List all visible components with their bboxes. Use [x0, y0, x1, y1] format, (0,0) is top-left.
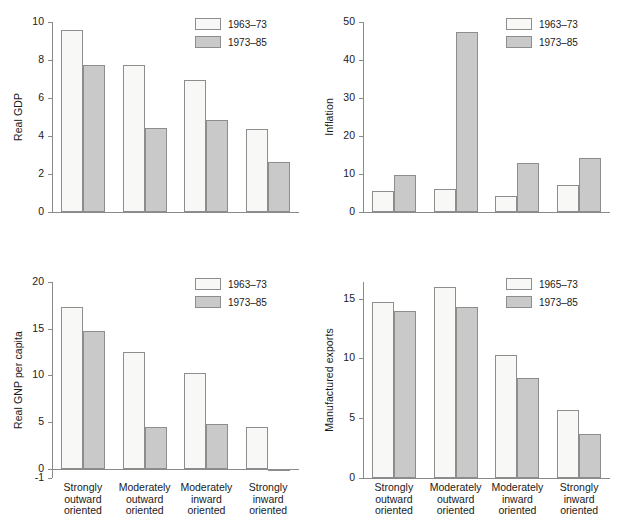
figure-bar-chart-grid: 0246810Real GDP1963–731973–85 0102030405… [0, 0, 622, 525]
bar-manufactured-exports-g1-s0 [434, 287, 456, 478]
y-axis-tick [48, 375, 52, 376]
legend-swatch-icon [506, 278, 532, 290]
legend-label: 1963–73 [228, 279, 267, 290]
bar-real-gdp-g3-s1 [268, 162, 290, 212]
y-axis-line [52, 282, 53, 478]
y-axis-tick [48, 212, 52, 213]
legend-label: 1973–85 [228, 297, 267, 308]
chart-panel-manufactured-exports: 051015Manufactured exports1965–731973–85… [311, 260, 622, 525]
bar-manufactured-exports-g1-s1 [456, 307, 478, 478]
bar-real-gdp-g0-s0 [61, 30, 83, 212]
y-axis-tick [48, 60, 52, 61]
bar-real-gdp-g1-s1 [145, 128, 167, 212]
y-axis-line [363, 282, 364, 478]
y-axis-tick [48, 422, 52, 423]
bar-inflation-g1-s1 [456, 32, 478, 212]
legend-label: 1963–73 [539, 19, 578, 30]
chart-panel-real-gnp-per-capita: -105101520Real GNP per capita1963–731973… [0, 260, 311, 525]
bar-real-gnp-per-capita-g2-s0 [184, 373, 206, 468]
bar-real-gnp-per-capita-g0-s1 [83, 331, 105, 469]
y-axis-tick [359, 212, 363, 213]
bar-inflation-g0-s0 [372, 191, 394, 212]
x-axis-category-label: Strongly inward oriented [237, 482, 299, 517]
bar-real-gdp-g2-s1 [206, 120, 228, 212]
bar-inflation-g2-s1 [517, 163, 539, 212]
x-axis-category-labels: Strongly outward orientedModerately outw… [363, 482, 610, 517]
bar-inflation-g1-s0 [434, 189, 456, 212]
x-axis-category-label: Moderately outward oriented [114, 482, 176, 517]
y-axis-tick-label: 2 [10, 168, 44, 178]
bar-inflation-g3-s0 [557, 185, 579, 212]
legend-swatch-icon [506, 18, 532, 30]
bar-manufactured-exports-g3-s1 [579, 434, 601, 478]
x-axis-category-label: Moderately inward oriented [487, 482, 549, 517]
x-axis-category-label: Strongly inward oriented [548, 482, 610, 517]
x-axis-category-label: Strongly outward oriented [52, 482, 114, 517]
bar-manufactured-exports-g2-s1 [517, 378, 539, 478]
y-axis-tick-label: 8 [10, 54, 44, 64]
bar-manufactured-exports-g0-s0 [372, 302, 394, 478]
y-axis-tick-label: 0 [10, 206, 44, 216]
bar-real-gdp-g0-s1 [83, 65, 105, 212]
y-axis-line [52, 22, 53, 212]
y-axis-tick [359, 418, 363, 419]
legend-label: 1973–85 [539, 297, 578, 308]
y-axis-tick [48, 478, 52, 479]
bar-real-gnp-per-capita-g0-s0 [61, 307, 83, 468]
y-axis-tick-label: 0 [321, 206, 355, 216]
x-axis-category-label: Strongly outward oriented [363, 482, 425, 517]
y-axis-tick [359, 174, 363, 175]
bar-real-gnp-per-capita-g1-s1 [145, 427, 167, 469]
bar-manufactured-exports-g3-s0 [557, 410, 579, 478]
y-axis-tick [48, 22, 52, 23]
bar-real-gdp-g3-s0 [246, 129, 268, 212]
y-axis-tick [48, 329, 52, 330]
bar-real-gnp-per-capita-g2-s1 [206, 424, 228, 468]
legend-label: 1963–73 [228, 19, 267, 30]
y-axis-tick-label: 0 [321, 472, 355, 482]
bar-real-gnp-per-capita-g1-s0 [123, 352, 145, 469]
bar-manufactured-exports-g0-s1 [394, 311, 416, 478]
legend-swatch-icon [195, 18, 221, 30]
legend-swatch-icon [506, 296, 532, 308]
bar-manufactured-exports-g2-s0 [495, 355, 517, 478]
legend-swatch-icon [195, 36, 221, 48]
y-axis-tick-label: 40 [321, 54, 355, 64]
x-axis-line [363, 212, 610, 213]
x-axis-line [52, 469, 299, 470]
y-axis-tick [359, 299, 363, 300]
bar-real-gnp-per-capita-g3-s1 [268, 469, 290, 471]
legend-label: 1965–73 [539, 279, 578, 290]
y-axis-tick [359, 478, 363, 479]
y-axis-tick-label: 10 [10, 16, 44, 26]
legend-swatch-icon [506, 36, 532, 48]
y-axis-tick [48, 282, 52, 283]
y-axis-tick [359, 136, 363, 137]
y-axis-tick [359, 22, 363, 23]
y-axis-tick-label: 10 [321, 168, 355, 178]
y-axis-tick [48, 98, 52, 99]
y-axis-tick-label: 0 [10, 463, 44, 473]
y-axis-title: Manufactured exports [323, 328, 335, 432]
legend-swatch-icon [195, 278, 221, 290]
y-axis-tick-label: 50 [321, 16, 355, 26]
x-axis-line [52, 212, 299, 213]
bar-inflation-g0-s1 [394, 175, 416, 212]
y-axis-tick [48, 136, 52, 137]
x-axis-category-label: Moderately outward oriented [425, 482, 487, 517]
y-axis-line [363, 22, 364, 212]
chart-panel-inflation: 01020304050Inflation1963–731973–85 [311, 0, 622, 262]
y-axis-tick [48, 469, 52, 470]
x-axis-category-labels: Strongly outward orientedModerately outw… [52, 482, 299, 517]
legend-swatch-icon [195, 296, 221, 308]
y-axis-tick [359, 358, 363, 359]
legend-label: 1973–85 [539, 37, 578, 48]
bar-real-gnp-per-capita-g3-s0 [246, 427, 268, 469]
y-axis-title: Real GNP per capita [12, 331, 24, 429]
bar-inflation-g3-s1 [579, 158, 601, 212]
x-axis-line [363, 478, 610, 479]
y-axis-tick [359, 98, 363, 99]
bar-real-gdp-g1-s0 [123, 65, 145, 212]
chart-panel-real-gdp: 0246810Real GDP1963–731973–85 [0, 0, 311, 262]
y-axis-tick [359, 60, 363, 61]
